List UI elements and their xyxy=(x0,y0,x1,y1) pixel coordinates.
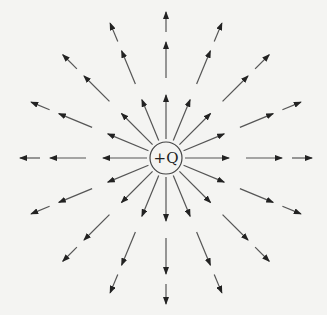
field-line-arrow xyxy=(197,232,211,265)
field-line-arrow xyxy=(282,206,300,214)
field-line-arrow xyxy=(173,100,190,141)
field-line-arrow xyxy=(142,176,159,217)
charge-label: +Q xyxy=(154,149,179,167)
field-line-arrow xyxy=(63,55,77,69)
field-diagram: +Q xyxy=(0,0,327,315)
field-line-arrow xyxy=(240,114,273,128)
field-line-arrow xyxy=(63,247,77,261)
field-line-arrow xyxy=(84,76,109,101)
field-line-arrow xyxy=(59,114,92,128)
field-line-arrow xyxy=(121,113,152,144)
field-line-arrow xyxy=(179,171,210,202)
field-line-arrow xyxy=(255,55,269,69)
field-line-arrow xyxy=(84,215,109,240)
field-line-arrow xyxy=(223,76,248,101)
field-line-arrow xyxy=(197,51,211,84)
field-line-arrow xyxy=(110,274,118,292)
field-line-arrow xyxy=(142,100,159,141)
field-line-arrow xyxy=(255,247,269,261)
field-line-arrow xyxy=(179,113,210,144)
field-line-arrow xyxy=(282,102,300,110)
field-line-arrow xyxy=(184,134,225,151)
field-line-arrow xyxy=(108,134,149,151)
field-line-arrow xyxy=(214,23,222,41)
field-line-arrow xyxy=(31,206,49,214)
field-line-arrow xyxy=(214,274,222,292)
field-line-arrow xyxy=(184,165,225,182)
field-line-arrow xyxy=(122,51,136,84)
field-line-arrow xyxy=(173,176,190,217)
field-line-arrow xyxy=(59,189,92,203)
field-line-arrow xyxy=(31,102,49,110)
field-line-arrow xyxy=(122,232,136,265)
field-line-arrow xyxy=(110,23,118,41)
field-line-arrow xyxy=(121,171,152,202)
field-line-arrow xyxy=(240,189,273,203)
field-line-arrow xyxy=(223,215,248,240)
field-line-arrow xyxy=(108,165,149,182)
